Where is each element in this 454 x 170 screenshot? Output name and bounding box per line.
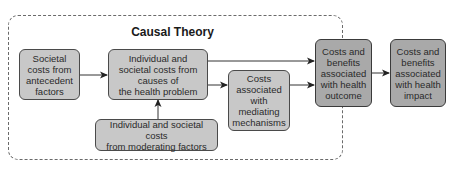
node-causes-costs: Individual and societal costs from cause… xyxy=(108,49,208,100)
node-outcome-label: Costs and benefits associated with healt… xyxy=(321,46,366,101)
causal-theory-title: Causal Theory xyxy=(110,25,235,39)
node-mediating-costs: Costs associated with mediating mechanis… xyxy=(228,70,290,131)
node-mediating-label: Costs associated with mediating mechanis… xyxy=(232,73,285,128)
node-moderating-label: Individual and societal costs from moder… xyxy=(99,119,214,152)
node-antecedent-label: Societal costs from antecedent factors xyxy=(26,53,73,97)
node-causes-label: Individual and societal costs from cause… xyxy=(119,53,198,97)
node-impact-label: Costs and benefits associated with healt… xyxy=(395,46,440,101)
node-health-outcome: Costs and benefits associated with healt… xyxy=(315,39,372,107)
node-moderating-costs: Individual and societal costs from moder… xyxy=(95,119,218,151)
node-antecedent-costs: Societal costs from antecedent factors xyxy=(19,49,80,100)
node-health-impact: Costs and benefits associated with healt… xyxy=(390,39,446,107)
